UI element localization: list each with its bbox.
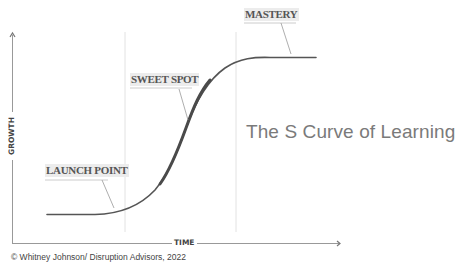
mastery-label: MASTERY bbox=[244, 8, 299, 21]
x-axis-label: TIME bbox=[172, 238, 197, 248]
s-curve-steep-emphasis bbox=[160, 80, 210, 184]
launch-point-leader bbox=[102, 180, 114, 208]
y-axis-label: GROWTH bbox=[7, 112, 17, 160]
diagram-title: The S Curve of Learning bbox=[246, 121, 455, 143]
mastery-leader bbox=[281, 23, 291, 54]
sweet-spot-leader bbox=[179, 89, 188, 120]
launch-point-label: LAUNCH POINT bbox=[45, 164, 129, 177]
sweet-spot-label: SWEET SPOT bbox=[130, 73, 199, 86]
copyright-notice: © Whitney Johnson/ Disruption Advisors, … bbox=[11, 252, 186, 262]
